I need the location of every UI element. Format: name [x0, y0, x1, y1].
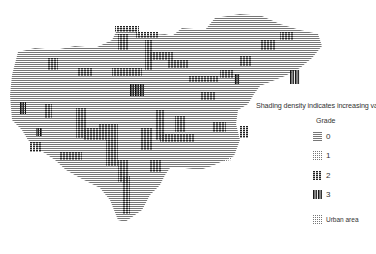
map-legend: Shading density indicates increasing va …: [256, 101, 376, 110]
light-dots-swatch-icon: [313, 151, 322, 160]
legend-item-urban-area: Urban area: [313, 215, 359, 224]
legend-subtitle: Grade: [316, 117, 335, 124]
legend-item-grade-2: 2: [313, 171, 330, 180]
dotted-grid-swatch-icon: [313, 215, 322, 224]
legend-title: Shading density indicates increasing va: [256, 101, 376, 110]
legend-item-grade-1: 1: [313, 151, 330, 160]
dense-blocks-swatch-icon: [313, 171, 322, 180]
horizontal-lines-swatch-icon: [313, 132, 322, 141]
vertical-bars-swatch-icon: [313, 190, 322, 199]
legend-item-grade-0: 0: [313, 132, 330, 141]
legend-item-grade-3: 3: [313, 190, 330, 199]
